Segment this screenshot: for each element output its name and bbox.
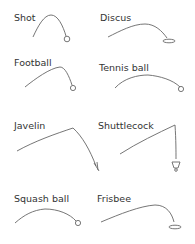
trajectory-discus [108,24,175,43]
squash-ball-icon [75,220,80,225]
trajectory-tennis-ball [115,75,184,92]
trajectory-shuttlecock [120,125,180,171]
shot-ball-icon [64,36,70,42]
trajectory-shot [33,15,70,42]
trajectory-javelin [17,128,99,171]
football-icon [70,85,75,90]
trajectory-football [25,67,76,91]
discus-icon [163,39,175,43]
tennis-ball-icon [178,86,183,91]
frisbee-icon [169,225,181,229]
shuttlecock-icon [172,162,180,168]
trajectory-squash-ball [15,209,81,226]
trajectory-frisbee [101,205,181,229]
